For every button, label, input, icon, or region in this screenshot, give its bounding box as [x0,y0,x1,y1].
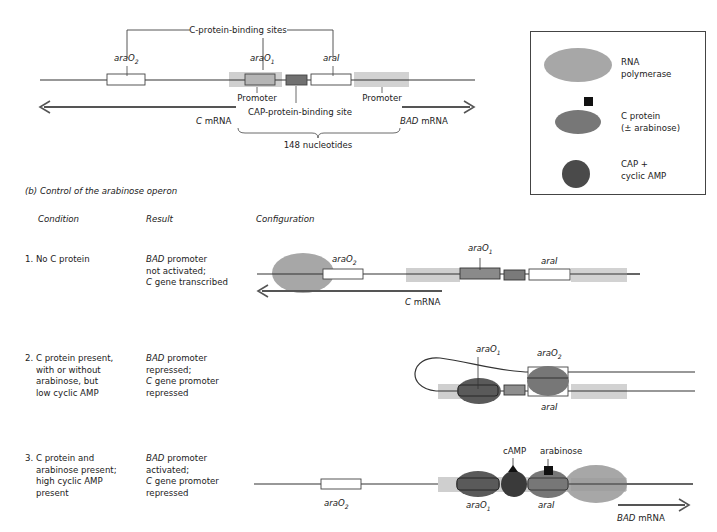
binding-sites-bracket [127,30,333,70]
araI-box [311,74,351,85]
cap-binding-box [286,75,307,85]
top-diagram: C-protein-binding sites Promoter Promote… [40,25,475,150]
config-row-1 [257,253,640,297]
top-promoter-left-label: Promoter [237,93,277,103]
legend-rna-polymerase-label: RNApolymerase [621,57,671,80]
config-row-2 [415,357,695,404]
top-araO1-label: araO1 [250,53,275,67]
araO2-box [321,479,361,489]
bad-promoter-region [406,268,460,282]
cap-camp [501,471,527,497]
row-3-araI-label: araI [538,500,555,512]
top-araI-label: araI [323,53,340,65]
arabinose-square [544,466,553,475]
col-header-configuration: Configuration [256,214,314,226]
araO2-box [323,269,363,279]
top-araO2-label: araO2 [114,53,139,67]
row-1-result: BAD promoternot activated;C gene transcr… [146,254,228,289]
araO1-box [245,74,275,85]
row-3-arabinose-label: arabinose [540,446,582,458]
row-1-c-mrna-label: C mRNA [405,297,440,309]
row-1-condition: 1. No C protein [25,254,90,266]
section-b-title: (b) Control of the arabinose operon [25,186,177,198]
row-3-araO1-label: araO1 [466,500,491,514]
col-header-condition: Condition [38,214,79,226]
araI-box [529,269,570,280]
c-protein-araO2-araI [527,366,569,396]
araO2-box [107,74,145,85]
legend-c-protein-label: C protein(± arabinose) [621,111,680,134]
top-c-mrna-label: C mRNA [196,116,231,128]
row-1-araO1-label: araO1 [468,243,493,257]
row-1-araO2-label: araO2 [332,254,357,268]
row-1-araI-label: araI [541,256,558,268]
top-148-label: 148 nucleotides [284,140,353,150]
row-2-araI-label: araI [541,402,558,414]
cap-box [504,270,525,280]
row-2-condition: 2. C protein present, with or without ar… [25,353,113,399]
c-protein-araO1 [456,471,500,497]
col-header-result: Result [146,214,173,226]
binding-sites-label: C-protein-binding sites [189,25,287,35]
row-3-result: BAD promoteractivated;C gene promoterrep… [146,453,219,499]
top-cap-site-label: CAP-protein-binding site [248,107,352,117]
top-promoter-right-label: Promoter [362,93,402,103]
row-3-camp-label: cAMP [503,446,526,458]
row-3-condition: 3. C protein and arabinose present; high… [25,453,117,499]
top-bad-mrna-label: BAD mRNA [400,116,448,128]
row-2-result: BAD promoterrepressed;C gene promoterrep… [146,353,219,399]
row-3-araO2-label: araO2 [324,498,349,512]
c-protein-araO1 [457,378,501,404]
row-2-araO1-label: araO1 [476,344,501,358]
span-brace [238,128,400,138]
row-3-bad-mrna-label: BAD mRNA [617,513,665,525]
legend-cap-label: CAP +cyclic AMP [621,159,666,182]
row-2-araO2-label: araO2 [537,348,562,362]
